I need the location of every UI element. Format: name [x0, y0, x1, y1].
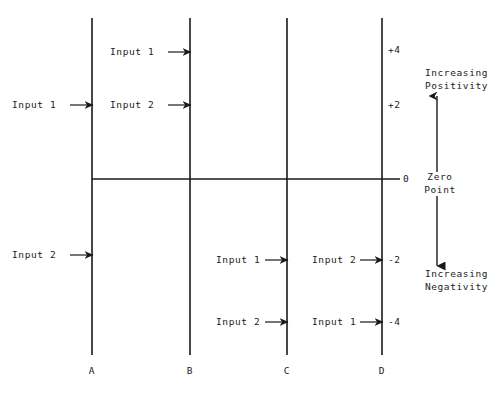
input-arrow-label: Input 1 [312, 316, 356, 328]
increasing-negativity-label-line1: Increasing [414, 267, 499, 280]
scale-tick-minus-2: -2 [388, 254, 401, 266]
axis-label-a: A [82, 365, 102, 377]
input-arrow-label: Input 1 [110, 46, 154, 58]
increasing-negativity-label-line2: Negativity [414, 280, 499, 293]
scale-tick-plus-2: +2 [388, 99, 401, 111]
input-arrow-shafts [70, 52, 383, 322]
axis-label-c: C [277, 365, 297, 377]
input-arrow-label: Input 2 [312, 254, 356, 266]
axis-label-d: D [372, 365, 392, 377]
input-arrow-label: Input 2 [110, 99, 154, 111]
input-arrow-label: Input 2 [12, 249, 56, 261]
scale-tick-plus-4: +4 [388, 44, 401, 56]
increasing-positivity-label-line2: Positivity [414, 79, 499, 92]
scale-tick-zero: 0 [403, 173, 409, 185]
scale-tick-minus-4: -4 [388, 316, 401, 328]
diagram-vector-layer [0, 0, 499, 395]
increasing-positivity-label-line1: Increasing [414, 66, 499, 79]
zero-point-label-line2: Point [414, 183, 466, 196]
input-arrow-label: Input 1 [12, 99, 56, 111]
input-arrow-label: Input 2 [216, 316, 260, 328]
zero-point-label-line1: Zero [414, 170, 466, 183]
axis-lines [92, 18, 382, 355]
diagram-canvas: Input 1 Input 1 Input 2 Input 2 Input 1 … [0, 0, 499, 395]
input-arrow-label: Input 1 [216, 254, 260, 266]
axis-label-b: B [180, 365, 200, 377]
